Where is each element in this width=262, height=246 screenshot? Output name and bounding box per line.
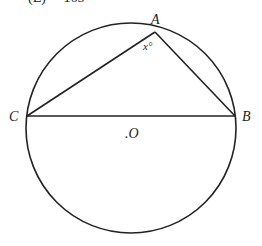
label-angle-x: x° — [142, 40, 153, 52]
label-c: C — [9, 109, 19, 124]
label-center-o: .O — [125, 126, 139, 141]
label-b: B — [242, 109, 251, 124]
label-a: A — [150, 12, 160, 27]
geometry-diagram: A x° C B .O — [0, 0, 262, 246]
chord-ca — [27, 32, 155, 116]
